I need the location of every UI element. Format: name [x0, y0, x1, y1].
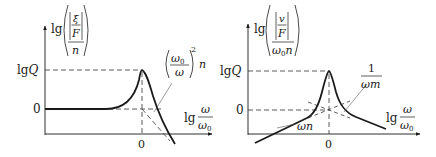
svg-text:n: n: [72, 44, 79, 57]
left-x-zero-label: 0: [138, 138, 145, 151]
svg-text:2: 2: [191, 45, 196, 54]
left-zero-label: 0: [33, 102, 41, 116]
svg-text:n: n: [199, 58, 206, 71]
right-high-asymptote-label: 1 ωm: [361, 62, 382, 91]
left-y-axis-label: lg ξ F n: [51, 5, 88, 57]
left-asymptote-label: ω0 ω 2 n: [166, 45, 206, 79]
svg-text:F: F: [71, 27, 80, 40]
left-response-curve: [45, 70, 175, 144]
svg-text:ω0: ω0: [171, 52, 184, 66]
right-zero-label: 0: [236, 103, 244, 117]
svg-text:ω0: ω0: [198, 119, 211, 133]
right-y-axis-label: lg v F ω0n: [254, 5, 299, 58]
svg-text:lg: lg: [386, 111, 398, 125]
left-x-axis-label: lg ω ω0: [184, 103, 213, 133]
svg-text:ξ: ξ: [73, 13, 79, 24]
svg-text:ω: ω: [403, 103, 412, 116]
resonance-diagrams: lgQ 0 0 lg ξ F n ω0 ω 2 n lg: [0, 0, 436, 157]
svg-text:lg: lg: [184, 111, 196, 125]
svg-text:ωm: ωm: [361, 78, 380, 91]
left-asymptote: [142, 109, 170, 141]
right-x-zero-label: 0: [325, 138, 332, 151]
left-label-leader: [154, 83, 172, 112]
svg-text:ω: ω: [175, 66, 184, 79]
svg-text:v: v: [279, 13, 285, 24]
svg-text:lg: lg: [51, 22, 63, 36]
left-diagram: lgQ 0 0 lg ξ F n ω0 ω 2 n lg: [17, 5, 213, 151]
svg-text:1: 1: [368, 62, 375, 75]
svg-text:ω0: ω0: [400, 119, 413, 133]
right-low-asymptote-label: ωn: [297, 120, 313, 133]
right-lgq-label: lgQ: [220, 64, 242, 78]
right-diagram: lgQ 0 0 lg v F ω0n 1 ωm ωn lg ω: [220, 5, 420, 151]
svg-text:F: F: [277, 27, 286, 40]
right-x-axis-label: lg ω ω0: [386, 103, 415, 133]
svg-text:lg: lg: [254, 22, 266, 36]
svg-text:ω: ω: [201, 103, 210, 116]
left-lgq-label: lgQ: [17, 63, 39, 77]
svg-text:ω0n: ω0n: [272, 44, 293, 58]
